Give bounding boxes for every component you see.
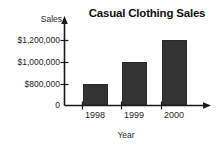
arrow-right-icon xyxy=(203,102,211,108)
x-tick-label-1998: 1998 xyxy=(75,110,115,121)
x-tick-label-1999: 1999 xyxy=(114,110,154,121)
bar-1999 xyxy=(122,62,147,105)
arrow-up-icon xyxy=(61,16,68,24)
bar-2000 xyxy=(162,40,187,105)
x-tick-label-2000: 2000 xyxy=(154,110,194,121)
bar-chart: Casual Clothing Sales Sales Year $1,200,… xyxy=(0,0,218,149)
bar-1998 xyxy=(83,84,108,105)
